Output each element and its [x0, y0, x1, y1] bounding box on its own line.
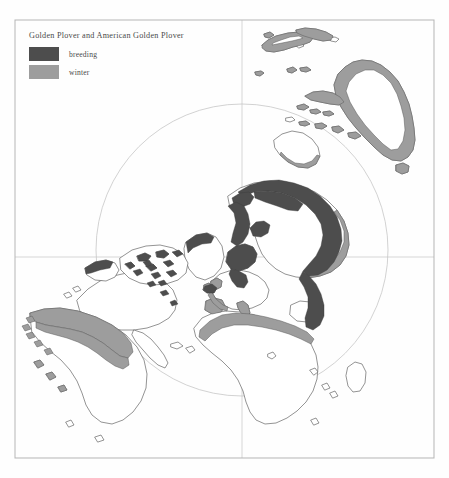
legend-item-breeding: breeding	[29, 47, 229, 61]
legend-swatch-winter	[29, 65, 59, 79]
legend-item-winter: winter	[29, 65, 229, 79]
map-legend: Golden Plover and American Golden Plover…	[29, 31, 229, 83]
legend-label-winter: winter	[69, 68, 90, 77]
legend-swatch-breeding	[29, 47, 59, 61]
legend-label-breeding: breeding	[69, 50, 97, 59]
page-background: Golden Plover and American Golden Plover…	[0, 0, 449, 478]
map-title: Golden Plover and American Golden Plover	[29, 31, 229, 40]
